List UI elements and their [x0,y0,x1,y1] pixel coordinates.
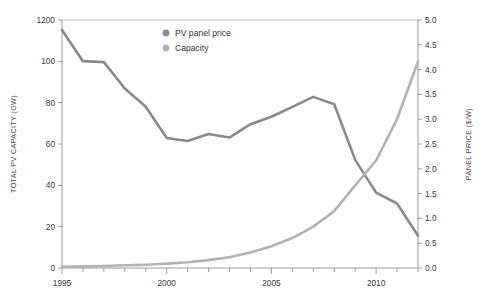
x-tick-label: 2005 [262,278,281,288]
series-layer [62,30,418,267]
plot-frame [62,20,418,268]
left-axis-ticks: 0204060801001200 [37,15,62,273]
x-tick-label: 2000 [157,278,176,288]
y2-tick-label: 4.0 [425,65,437,75]
y-tick-label: 60 [46,139,56,149]
y2-tick-label: 0.5 [425,238,437,248]
y-axis-title: TOTAL PV CAPACITY (GW) [9,95,18,193]
y2-tick-label: 3.5 [425,89,437,99]
legend-label: PV panel price [175,28,231,38]
y-tick-label: 20 [46,222,56,232]
y2-tick-label: 4.5 [425,40,437,50]
y2-tick-label: 1.5 [425,189,437,199]
y-tick-label: 80 [46,98,56,108]
right-axis-ticks: 0.00.51.01.52.02.53.03.54.04.55.0 [418,15,437,273]
y2-tick-label: 2.5 [425,139,437,149]
x-axis-ticks: 1995200020052010 [53,268,418,288]
y-tick-label: 0 [50,263,55,273]
x-tick-label: 1995 [53,278,72,288]
y2-tick-label: 2.0 [425,164,437,174]
dual-axis-line-chart: 0204060801001200 0.00.51.01.52.02.53.03.… [0,0,484,308]
legend: PV panel priceCapacity [163,28,232,53]
y-tick-label: 1200 [37,15,56,25]
y2-axis-title: PANEL PRICE ($/W) [464,108,473,180]
y2-tick-label: 0.0 [425,263,437,273]
legend-label: Capacity [175,43,209,53]
y2-tick-label: 3.0 [425,114,437,124]
y2-tick-label: 1.0 [425,213,437,223]
legend-marker-icon [163,30,170,37]
series-line-pv-panel-price [62,30,418,236]
y-tick-label: 40 [46,180,56,190]
chart-container: 0204060801001200 0.00.51.01.52.02.53.03.… [0,0,484,308]
y-tick-label: 100 [41,56,55,66]
y2-tick-label: 5.0 [425,15,437,25]
legend-marker-icon [163,45,170,52]
series-line-capacity [62,61,418,266]
x-tick-label: 2010 [367,278,386,288]
